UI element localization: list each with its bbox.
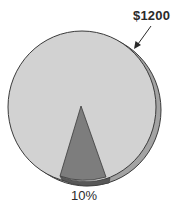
slice-percent-label: 10% <box>71 188 97 203</box>
pie-chart <box>0 0 189 206</box>
total-value-label: $1200 <box>133 8 170 23</box>
arrow-icon <box>134 26 151 49</box>
